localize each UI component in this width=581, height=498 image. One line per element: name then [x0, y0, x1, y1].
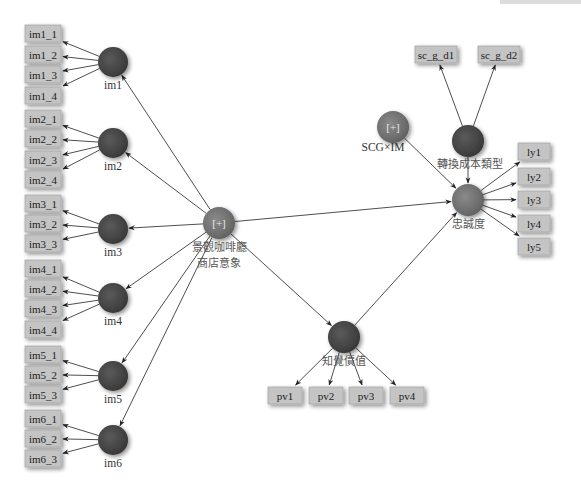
indicator-label: ly1: [527, 146, 541, 158]
loading-loyalty-ly5[interactable]: [481, 209, 519, 236]
latent-im4[interactable]: im4: [98, 283, 128, 327]
indicator-im5-1[interactable]: im5_1: [25, 346, 61, 363]
loading-im3-im3_1[interactable]: [63, 211, 99, 224]
indicator-ly1[interactable]: ly1: [518, 143, 550, 160]
indicator-ly4[interactable]: ly4: [518, 215, 550, 232]
loading-im4-im4_4[interactable]: [63, 304, 99, 320]
indicator-pv4[interactable]: pv4: [390, 387, 424, 404]
latent-circle: [328, 321, 360, 353]
loading-im1-im1_3[interactable]: [63, 65, 98, 71]
expand-icon[interactable]: [+]: [386, 121, 400, 133]
indicator-im5-3[interactable]: im5_3: [25, 386, 61, 403]
indicator-label: im1_3: [29, 69, 58, 81]
loading-im1-im1_1[interactable]: [63, 42, 99, 57]
indicator-im6-3[interactable]: im6_3: [25, 450, 61, 467]
loading-sctype-sc_g_d2[interactable]: [473, 65, 495, 126]
loading-im3-im3_2[interactable]: [63, 225, 98, 228]
indicator-im1-4[interactable]: im1_4: [25, 87, 61, 104]
loading-im5-im5_1[interactable]: [63, 361, 99, 372]
indicator-pv3[interactable]: pv3: [349, 387, 383, 404]
latent-im3[interactable]: im3: [98, 214, 128, 258]
loading-im4-im4_2[interactable]: [63, 291, 98, 296]
loading-im5-im5_3[interactable]: [63, 380, 98, 389]
latent-circle: [98, 128, 128, 158]
indicator-label: pv4: [399, 390, 416, 402]
path-hub-to-im5[interactable]: [122, 236, 210, 363]
path-pv-to-loyalty[interactable]: [355, 213, 457, 326]
expand-icon[interactable]: [+]: [212, 217, 226, 229]
loading-im1-im1_2[interactable]: [63, 57, 98, 61]
latent-hub[interactable]: [+]景觀咖啡廳商店意象: [192, 207, 247, 270]
indicator-im4-2[interactable]: im4_2: [25, 280, 61, 297]
loading-im2-im2_2[interactable]: [63, 140, 98, 142]
indicator-label: im6_3: [29, 453, 58, 465]
loading-im2-im2_4[interactable]: [63, 150, 100, 169]
loading-im1-im1_4[interactable]: [63, 68, 99, 85]
indicator-label: im5_3: [29, 389, 58, 401]
indicator-pv1[interactable]: pv1: [268, 387, 302, 404]
indicator-im5-2[interactable]: im5_2: [25, 366, 61, 383]
indicator-im6-2[interactable]: im6_2: [25, 430, 61, 447]
indicator-pv2[interactable]: pv2: [309, 387, 343, 404]
indicator-label: im6_1: [29, 413, 57, 425]
loading-sctype-sc_g_d1[interactable]: [440, 65, 463, 126]
path-hub-to-loyalty[interactable]: [235, 202, 451, 222]
indicator-label: im4_4: [29, 324, 58, 336]
loading-loyalty-ly4[interactable]: [483, 205, 516, 217]
latent-im1[interactable]: im1: [98, 47, 128, 91]
indicator-im2-4[interactable]: im2_4: [25, 171, 61, 188]
latent-label: im6: [104, 457, 122, 469]
indicator-im4-1[interactable]: im4_1: [25, 260, 61, 277]
path-hub-to-im3[interactable]: [129, 224, 203, 228]
latent-im6[interactable]: im6: [98, 425, 128, 469]
loading-im3-im3_3[interactable]: [63, 232, 98, 239]
latent-label: im3: [104, 246, 122, 258]
loading-im5-im5_2[interactable]: [63, 375, 98, 376]
latent-sublabel: 轉換成本類型: [437, 157, 503, 171]
indicator-im2-2[interactable]: im2_2: [25, 130, 61, 147]
indicator-label: im3_3: [29, 238, 58, 250]
indicator-label: im2_4: [29, 174, 58, 186]
indicator-label: im6_2: [29, 433, 57, 445]
indicator-sc-g-d1[interactable]: sc_g_d1: [415, 46, 457, 63]
path-model-diagram: im1_1im1_2im1_3im1_4im2_1im2_2im2_3im2_4…: [0, 0, 581, 498]
path-hub-to-im2[interactable]: [126, 153, 206, 214]
indicator-im6-1[interactable]: im6_1: [25, 410, 61, 427]
latent-im5[interactable]: im5: [98, 361, 128, 405]
indicator-label: im1_4: [29, 90, 58, 102]
loading-im6-im6_1[interactable]: [63, 425, 99, 436]
indicator-ly3[interactable]: ly3: [518, 191, 550, 208]
indicator-label: im2_3: [29, 154, 58, 166]
loading-im4-im4_1[interactable]: [63, 277, 99, 292]
loading-im6-im6_2[interactable]: [63, 439, 98, 440]
indicator-sc-g-d2[interactable]: sc_g_d2: [478, 46, 520, 63]
indicator-im1-1[interactable]: im1_1: [25, 25, 61, 42]
latent-im2[interactable]: im2: [98, 128, 128, 172]
indicator-label: pv1: [277, 390, 294, 402]
latent-sublabel: 忠誠度: [452, 217, 485, 231]
latent-circle: [98, 47, 128, 77]
indicator-im3-1[interactable]: im3_1: [25, 195, 61, 212]
indicator-im2-3[interactable]: im2_3: [25, 151, 61, 168]
indicator-im4-4[interactable]: im4_4: [25, 321, 61, 338]
indicator-im1-3[interactable]: im1_3: [25, 66, 61, 83]
latent-sctype[interactable]: 轉換成本類型: [437, 125, 503, 171]
latent-loyalty[interactable]: 忠誠度: [452, 184, 485, 231]
indicator-ly2[interactable]: ly2: [518, 168, 550, 185]
latent-label: im2: [104, 160, 122, 172]
indicator-im2-1[interactable]: im2_1: [25, 110, 61, 127]
latent-circle: [98, 283, 128, 313]
loading-im6-im6_3[interactable]: [63, 444, 98, 453]
indicator-im1-2[interactable]: im1_2: [25, 46, 61, 63]
indicator-im4-3[interactable]: im4_3: [25, 300, 61, 317]
indicator-ly5[interactable]: ly5: [518, 238, 550, 255]
latent-scgim[interactable]: [+]SCG×IM: [362, 111, 409, 153]
indicator-label: pv3: [358, 390, 375, 402]
path-hub-to-im1[interactable]: [122, 75, 210, 209]
indicator-im3-2[interactable]: im3_2: [25, 215, 61, 232]
loading-im4-im4_3[interactable]: [63, 300, 98, 305]
indicator-im3-3[interactable]: im3_3: [25, 235, 61, 252]
latent-pv[interactable]: 知覺價值: [322, 321, 366, 368]
loading-im2-im2_1[interactable]: [63, 126, 99, 139]
loading-loyalty-ly2[interactable]: [483, 183, 516, 195]
